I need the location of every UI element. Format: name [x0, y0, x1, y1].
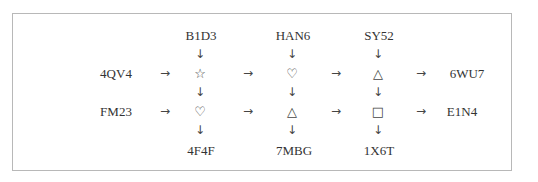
down-arrow-icon: ↓ [195, 48, 205, 60]
heart-icon: ♡ [194, 105, 206, 118]
star-icon: ☆ [194, 67, 206, 80]
row1-input-label: 4QV4 [100, 67, 132, 80]
triangle-icon: △ [373, 67, 383, 80]
right-arrow-icon: → [160, 67, 170, 79]
diagram-frame [12, 13, 512, 171]
bottom-label-2: 7MBG [276, 144, 312, 157]
right-arrow-icon: → [416, 67, 426, 79]
down-arrow-icon: ↓ [287, 48, 297, 60]
right-arrow-icon: → [160, 105, 170, 117]
down-arrow-icon: ↓ [287, 86, 297, 98]
row1-output-label: 6WU7 [450, 67, 485, 80]
top-label-3: SY52 [364, 29, 394, 42]
down-arrow-icon: ↓ [373, 124, 383, 136]
top-label-1: B1D3 [185, 29, 216, 42]
bottom-label-1: 4F4F [187, 144, 214, 157]
right-arrow-icon: → [331, 67, 341, 79]
row2-input-label: FM23 [100, 105, 132, 118]
bottom-label-3: 1X6T [364, 144, 394, 157]
triangle-icon: △ [287, 105, 297, 118]
right-arrow-icon: → [243, 67, 253, 79]
down-arrow-icon: ↓ [195, 124, 205, 136]
heart-icon: ♡ [286, 67, 298, 80]
right-arrow-icon: → [243, 105, 253, 117]
down-arrow-icon: ↓ [373, 86, 383, 98]
down-arrow-icon: ↓ [373, 48, 383, 60]
right-arrow-icon: → [416, 105, 426, 117]
row2-output-label: E1N4 [447, 105, 477, 118]
square-icon: □ [372, 105, 384, 118]
down-arrow-icon: ↓ [195, 86, 205, 98]
top-label-2: HAN6 [276, 29, 311, 42]
down-arrow-icon: ↓ [287, 124, 297, 136]
right-arrow-icon: → [331, 105, 341, 117]
